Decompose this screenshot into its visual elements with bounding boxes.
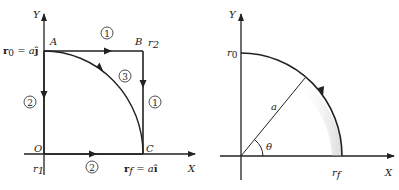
path-3-number: 3 xyxy=(122,72,128,82)
point-C-label: C xyxy=(146,143,154,154)
left-diagram: 1 1 3 2 2 Y X A B C O r2 r1 r0 = aĵ rf =… xyxy=(3,9,196,176)
r1-label: r1 xyxy=(33,163,44,176)
theta-angle-arc xyxy=(255,140,263,156)
path-1-top-number: 1 xyxy=(104,29,110,39)
figure-canvas: 1 1 3 2 2 Y X A B C O r2 r1 r0 = aĵ rf =… xyxy=(0,0,399,190)
r0-equation: r0 = aĵ xyxy=(3,45,39,58)
right-rf-label: rf xyxy=(332,167,343,180)
point-B-label: B xyxy=(134,36,142,47)
point-A-label: A xyxy=(49,36,57,47)
path-3-arc-arrow-icon xyxy=(97,63,105,74)
path-1-top-arrow-icon xyxy=(104,48,112,55)
radius-label: a xyxy=(271,101,277,112)
path-1-right-arrow-icon xyxy=(140,80,147,88)
path-2-bottom-number: 2 xyxy=(89,163,95,173)
left-x-axis-label: X xyxy=(187,163,196,174)
path-3-arc xyxy=(44,51,143,154)
path-2-bottom-arrow-icon xyxy=(89,151,97,158)
theta-label: θ xyxy=(266,141,272,152)
point-O-label: O xyxy=(34,143,42,154)
path-2-left-arrow-icon xyxy=(41,91,48,99)
right-diagram: Y X r0 rf a θ xyxy=(220,9,394,180)
rf-equation: rf = aî xyxy=(124,163,158,176)
right-r0-label: r0 xyxy=(227,47,238,60)
left-y-axis-label: Y xyxy=(33,9,41,20)
radius-line xyxy=(241,78,305,156)
r2-label: r2 xyxy=(148,37,159,50)
right-x-axis-label: X xyxy=(384,167,393,178)
right-y-axis-label: Y xyxy=(229,9,237,20)
path-1-right-number: 1 xyxy=(152,98,158,108)
path-2-left-number: 2 xyxy=(27,98,33,108)
